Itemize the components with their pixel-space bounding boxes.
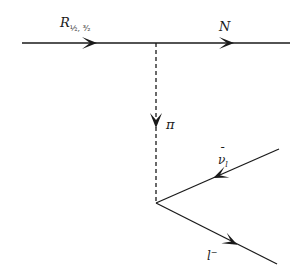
nucleon-label: N (218, 19, 231, 34)
diagram-canvas: R½, ³⁄₂ N π νl ¯ l− (0, 0, 303, 278)
feynman-diagram: R½, ³⁄₂ N π νl ¯ l− (0, 0, 303, 278)
antineutrino-bar: ¯ (219, 145, 225, 158)
resonance-label: R½, ³⁄₂ (59, 15, 90, 33)
lepton-label: l− (207, 248, 218, 263)
pion-label: π (165, 117, 175, 132)
